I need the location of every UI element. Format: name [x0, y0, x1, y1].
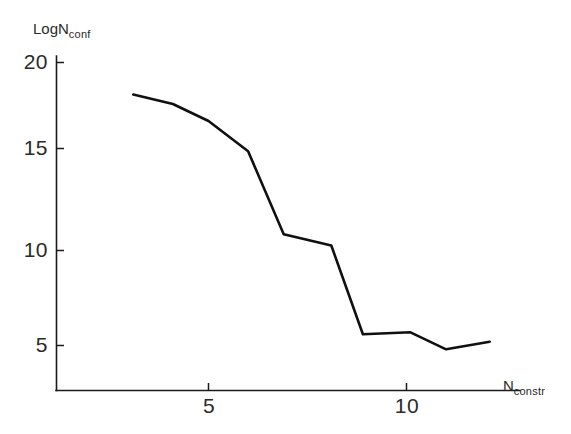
x-tick-label-10: 10 [387, 394, 427, 418]
x-tick-label-5: 5 [189, 394, 229, 418]
y-tick-label-20: 20 [2, 50, 48, 74]
y-axis-title: LogNconf [33, 20, 90, 40]
data-series-configurations [133, 95, 489, 350]
x-axis-title-subscript: constr [514, 385, 545, 397]
y-axis-title-main: LogN [33, 20, 69, 37]
y-tick-label-5: 5 [2, 333, 48, 357]
chart-figure: 20 15 10 5 5 10 LogNconf Nconstr [0, 0, 571, 434]
y-axis-title-subscript: conf [69, 28, 91, 40]
y-tick-label-10: 10 [2, 238, 48, 262]
x-axis-title-main: N [503, 377, 514, 394]
x-axis-title: Nconstr [503, 377, 545, 397]
plot-area [0, 0, 571, 434]
y-tick-label-15: 15 [2, 136, 48, 160]
